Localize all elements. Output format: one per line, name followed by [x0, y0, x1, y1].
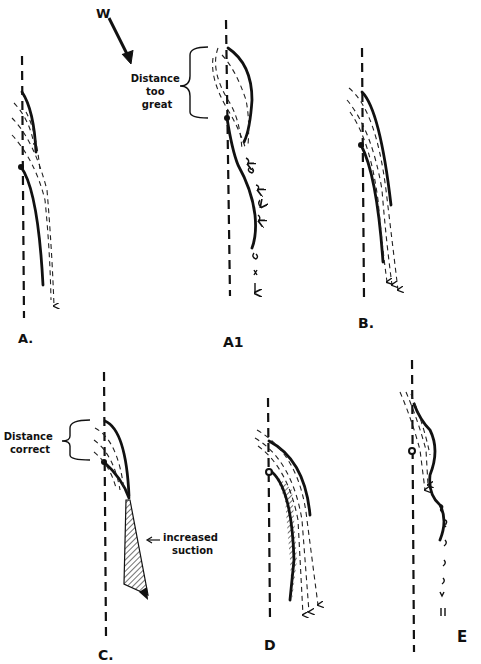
- panel-a1-label: A1: [223, 334, 244, 350]
- panel-e: E: [400, 360, 467, 652]
- panel-a-label: A.: [18, 331, 33, 346]
- annotation-distance-too-great: Distance too great: [131, 73, 184, 110]
- panel-a1: Distance too great A1: [131, 20, 261, 350]
- sail-slot-diagram: W A.: [0, 0, 481, 664]
- panel-c: Distance correct increased suction C.: [4, 372, 218, 663]
- increased-suction-note: increased suction: [147, 532, 218, 556]
- panel-e-label: E: [457, 628, 467, 646]
- wind-arrow: W: [96, 6, 133, 64]
- panel-c-label: C.: [98, 647, 114, 663]
- panel-d-label: D: [264, 637, 276, 653]
- annotation-distance-correct: Distance correct: [4, 431, 57, 455]
- diagram-svg: W A.: [0, 0, 481, 664]
- svg-text:increased: increased: [163, 532, 218, 543]
- svg-text:suction: suction: [172, 545, 213, 556]
- panel-b-label: B.: [358, 315, 374, 331]
- panel-d: D: [255, 398, 318, 653]
- panel-b: B.: [347, 48, 398, 331]
- panel-a: A.: [12, 56, 54, 346]
